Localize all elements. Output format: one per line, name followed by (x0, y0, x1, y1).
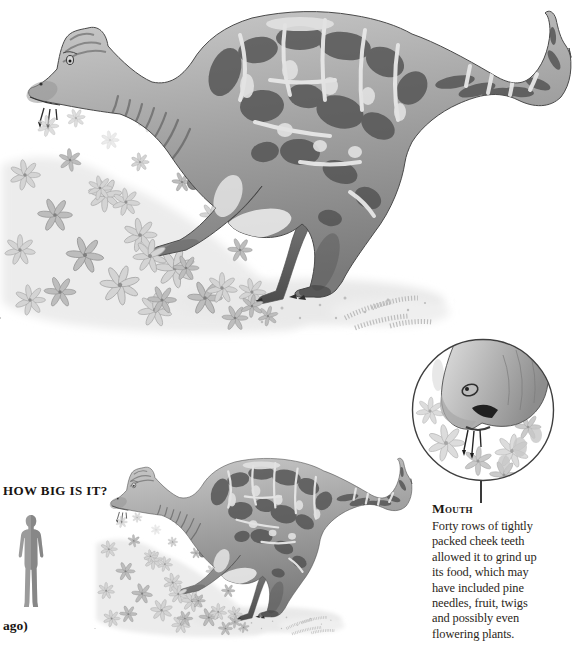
mouth-heading: Mouth (432, 501, 580, 517)
mouth-text-line: needles, fruit, twigs (432, 596, 580, 611)
mouth-text-line: its food, which may (432, 565, 580, 580)
mouth-text-line: flowering plants. (432, 627, 580, 642)
mouth-text-line: and possibly even (432, 611, 580, 626)
mouth-text-line: have included pine (432, 581, 580, 596)
how-big-heading: HOW BIG IS IT? (3, 483, 108, 499)
scale-dinosaur-scene (94, 458, 412, 637)
mouth-text-line: Forty rows of tightly (432, 519, 580, 534)
book-page: HOW BIG IS IT? ago) Mouth Forty rows of … (0, 0, 580, 646)
mouth-callout: Mouth Forty rows of tightly packed cheek… (432, 501, 580, 642)
main-dinosaur-scene (0, 11, 571, 333)
mouth-text-line: packed cheek teeth (432, 534, 580, 549)
human-silhouette-icon (11, 514, 51, 610)
inset-connector (480, 481, 482, 503)
mouth-text-line: allowed it to grind up (432, 550, 580, 565)
mouth-inset-circle (413, 325, 561, 489)
caption-fragment: ago) (3, 618, 28, 634)
